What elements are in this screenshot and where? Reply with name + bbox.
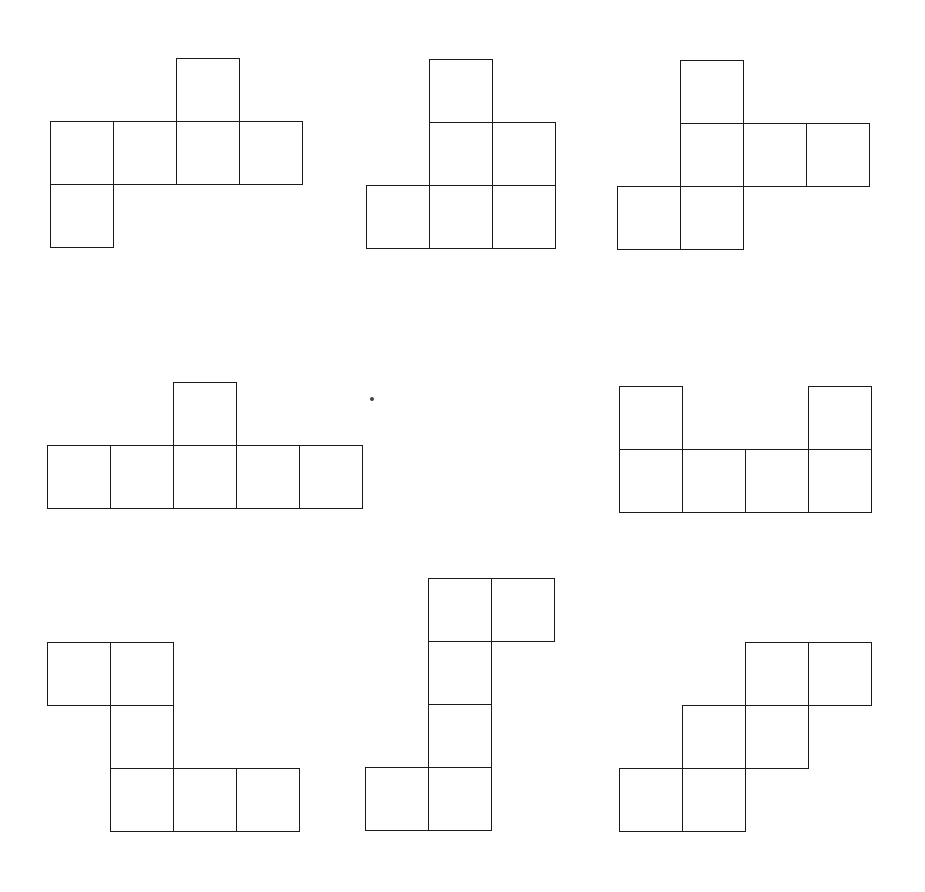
net-square (808, 386, 872, 450)
net-square (429, 185, 493, 249)
net-square (47, 642, 111, 706)
net-square (173, 382, 237, 446)
net-square (176, 121, 240, 185)
net-square (808, 449, 872, 513)
net-square (429, 59, 493, 123)
net-square (745, 449, 809, 513)
net-square (173, 445, 237, 509)
net-square (236, 445, 300, 509)
net-square (682, 449, 746, 513)
net-square (743, 123, 807, 187)
net-square (745, 642, 809, 706)
net-square (110, 768, 174, 832)
net-square (236, 768, 300, 832)
net-square (619, 386, 683, 450)
net-square (806, 123, 870, 187)
net-square (110, 705, 174, 769)
net-square (680, 186, 744, 250)
net-square (745, 705, 809, 769)
net-square (492, 122, 556, 186)
net-square (619, 449, 683, 513)
net-square (365, 767, 429, 831)
net-square (113, 121, 177, 185)
net-square (173, 768, 237, 832)
net-square (428, 641, 492, 705)
net-square (619, 768, 683, 832)
net-square (808, 642, 872, 706)
ink-speck (369, 396, 374, 401)
net-square (491, 578, 555, 642)
net-square (492, 185, 556, 249)
net-square (366, 185, 430, 249)
net-square (50, 121, 114, 185)
net-square (682, 768, 746, 832)
net-square (110, 642, 174, 706)
net-square (617, 186, 681, 250)
net-square (176, 58, 240, 122)
net-square (239, 121, 303, 185)
net-square (110, 445, 174, 509)
net-square (299, 445, 363, 509)
net-square (680, 123, 744, 187)
net-square (428, 578, 492, 642)
net-square (429, 122, 493, 186)
net-square (680, 60, 744, 124)
net-square (50, 184, 114, 248)
net-square (428, 767, 492, 831)
net-square (682, 705, 746, 769)
net-square (428, 704, 492, 768)
net-square (47, 445, 111, 509)
